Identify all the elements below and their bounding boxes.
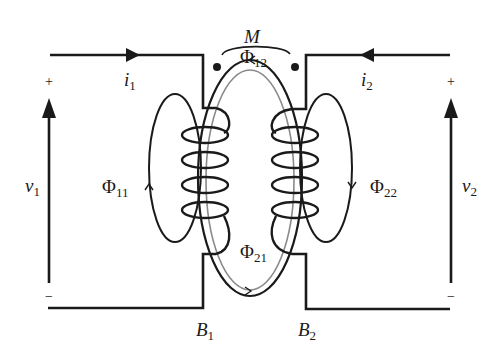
phi11-label: Φ11 <box>102 177 128 199</box>
phi21-label: Φ21 <box>240 242 267 264</box>
phi22-label: Φ22 <box>370 177 397 199</box>
right-bottom-wire <box>292 254 450 309</box>
b1-label: B1 <box>196 320 214 342</box>
dot-marker-left <box>213 63 221 71</box>
v2-label: v2 <box>462 176 477 198</box>
v1-label: v1 <box>25 176 40 198</box>
i1-label: i1 <box>124 70 136 92</box>
v2-plus-sign: + <box>447 75 455 89</box>
v1-plus-sign: + <box>45 75 53 89</box>
phi22-leakage-loop <box>300 94 352 242</box>
phi12-label: Φ12 <box>240 47 267 69</box>
b2-label: B2 <box>298 320 316 342</box>
phi21-direction-arrow <box>245 287 251 295</box>
v1-arrowhead-icon <box>42 98 56 118</box>
v2-arrowhead-icon <box>444 98 458 118</box>
left-bottom-wire <box>48 254 216 308</box>
i2-label: i2 <box>361 70 373 92</box>
coil-2 <box>272 109 318 254</box>
i1-arrow-icon <box>126 48 140 62</box>
mutual-label: M <box>244 27 260 46</box>
v2-minus-sign: − <box>447 290 455 304</box>
v1-minus-sign: − <box>45 290 53 304</box>
dot-marker-right <box>291 63 299 71</box>
i2-arrow-icon <box>360 48 374 62</box>
